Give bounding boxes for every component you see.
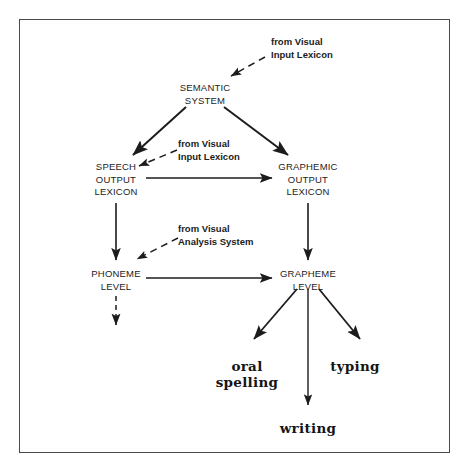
node-grapheme-level: GRAPHEME LEVEL	[280, 268, 336, 293]
node-speech-output-lexicon: SPEECH OUTPUT LEXICON	[94, 161, 137, 199]
arrow-visual-analysis-to-phoneme	[137, 238, 178, 259]
node-phoneme-level: PHONEME LEVEL	[91, 268, 140, 293]
arrow-visual-input-to-semantic	[231, 57, 265, 76]
output-oral-spelling: oral spelling	[216, 358, 279, 390]
node-semantic-system: SEMANTIC SYSTEM	[180, 82, 231, 107]
arrow-grapheme-to-typing	[319, 289, 360, 339]
arrow-visual-input-to-speech	[139, 150, 177, 166]
diagram-page: SEMANTIC SYSTEM SPEECH OUTPUT LEXICON GR…	[0, 0, 469, 471]
output-writing: writing	[280, 420, 337, 436]
edge-label-from-visual-analysis-system: from Visual Analysis System	[178, 223, 254, 248]
output-typing: typing	[330, 358, 380, 374]
edge-label-from-visual-input-lexicon-top: from Visual Input Lexicon	[271, 36, 333, 61]
node-graphemic-output-lexicon: GRAPHEMIC OUTPUT LEXICON	[278, 161, 337, 199]
arrow-grapheme-to-oral-spelling	[254, 289, 297, 339]
edge-label-from-visual-input-lexicon-mid: from Visual Input Lexicon	[178, 138, 240, 163]
